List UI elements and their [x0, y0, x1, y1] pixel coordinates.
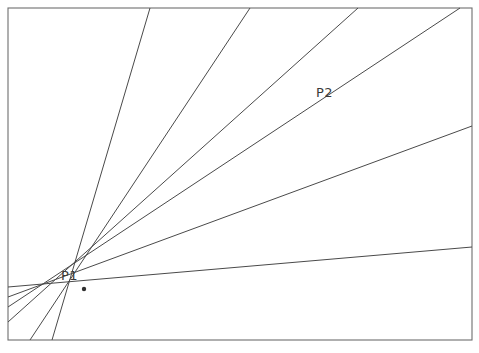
ray-through-p2	[8, 8, 460, 307]
vertex-group	[82, 287, 86, 291]
diagram-frame	[8, 8, 472, 340]
steep-ray-leftmost	[52, 8, 150, 340]
point-label-p2: P2	[316, 86, 333, 99]
figure-canvas: P1 P2	[0, 0, 479, 353]
vertex-dot-p1	[82, 287, 86, 291]
line-diagram-svg	[0, 0, 479, 353]
ray-group	[8, 8, 472, 340]
ray-to-top-left	[30, 8, 250, 340]
point-label-p1: P1	[61, 269, 78, 282]
